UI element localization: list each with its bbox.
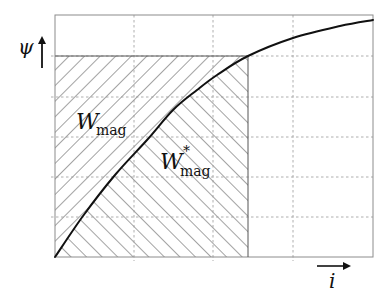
i-axis-label: i [329, 269, 335, 293]
svg-text:mag: mag [96, 122, 127, 138]
flux-current-diagram: ψ i W mag W * mag [0, 0, 392, 296]
psi-axis-label: ψ [18, 35, 34, 59]
svg-text:*: * [183, 143, 190, 159]
svg-text:mag: mag [180, 163, 211, 179]
energy-label: W mag [74, 108, 150, 138]
